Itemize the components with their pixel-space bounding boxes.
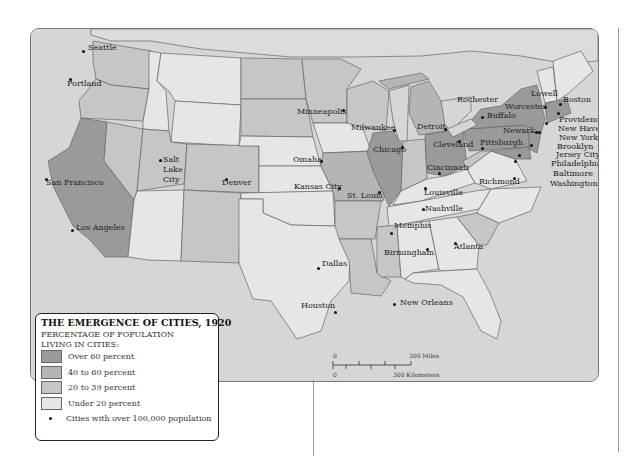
city-label: City — [163, 175, 179, 184]
city-dot-icon — [334, 311, 337, 314]
city-label: Houston — [301, 301, 335, 310]
city-label: Boston — [563, 95, 591, 104]
city-dot-icon — [518, 154, 521, 157]
city-label: Dallas — [322, 259, 347, 268]
city-dot-icon — [71, 229, 74, 232]
swatch-20-to-39 — [41, 381, 62, 394]
city-label: Atlanta — [454, 242, 483, 251]
city-label: Detroit — [417, 122, 446, 131]
city-dot-icon — [481, 116, 484, 119]
city-label: Cleveland — [433, 140, 473, 149]
city-dot-icon — [514, 160, 517, 163]
city-label: Louisville — [424, 188, 463, 197]
legend-subtitle-line1: PERCENTAGE OF POPULATION — [41, 330, 213, 340]
legend-item-40-to-60: 40 to 60 percent — [41, 365, 213, 381]
city-dot-icon — [530, 144, 533, 147]
page-divider-right — [618, 28, 619, 452]
scale-zero-miles: 0 — [333, 352, 337, 359]
city-label: Philadelphia — [551, 159, 599, 168]
legend-label: Under 20 percent — [68, 399, 140, 408]
city-label: Providence — [559, 115, 599, 124]
swatch-over-60 — [41, 350, 62, 363]
city-label: Denver — [222, 178, 251, 187]
legend-item-under-20: Under 20 percent — [41, 396, 213, 412]
city-label: Buffalo — [487, 111, 516, 120]
city-label: Cincinnati — [427, 163, 469, 172]
city-label: Memphis — [394, 221, 431, 230]
city-dot-icon — [393, 303, 396, 306]
swatch-under-20 — [41, 397, 62, 410]
swatch-40-to-60 — [41, 366, 62, 379]
city-label: Nashville — [425, 204, 463, 213]
scale-zero-km: 0 — [333, 371, 337, 378]
scale-miles-label: 300 Miles — [409, 352, 439, 359]
legend-subtitle-line2: LIVING IN CITIES: — [41, 340, 213, 350]
city-label: Birmingham — [384, 248, 434, 257]
city-label: Omaha — [293, 155, 322, 164]
city-label: Lowell — [531, 89, 558, 98]
city-label: San Francisco — [46, 178, 104, 187]
legend-label: Cities with over 100,000 population — [66, 414, 212, 423]
city-label: Lake — [163, 165, 183, 174]
city-label: Minneapolis — [297, 107, 347, 116]
legend-label: 20 to 39 percent — [68, 383, 135, 392]
city-dot-icon — [559, 103, 562, 106]
city-label: Rochester — [457, 95, 498, 104]
city-label: Milwaukee — [351, 123, 395, 132]
scale-bar — [331, 360, 421, 370]
city-label: Jersey City — [556, 150, 599, 159]
city-dot-icon — [159, 159, 162, 162]
map-legend: THE EMERGENCE OF CITIES, 1920 PERCENTAGE… — [35, 313, 219, 441]
city-label: St. Louis — [347, 191, 383, 200]
legend-title: THE EMERGENCE OF CITIES, 1920 — [41, 317, 213, 328]
city-label: Portland — [67, 79, 102, 88]
city-dot-icon — [390, 232, 393, 235]
legend-item-20-to-39: 20 to 39 percent — [41, 380, 213, 396]
page-divider-center — [313, 380, 314, 456]
city-label: Los Angeles — [76, 223, 125, 232]
city-dot-icon — [49, 417, 52, 420]
city-label: Newark — [503, 126, 535, 135]
city-dot-icon — [538, 131, 541, 134]
city-label: New Orleans — [400, 298, 453, 307]
legend-item-over-60: Over 60 percent — [41, 349, 213, 365]
city-label: Chicago — [373, 145, 406, 154]
city-label: Richmond — [479, 177, 520, 186]
city-label: New York — [559, 133, 598, 142]
city-dot-icon — [82, 50, 85, 53]
city-label: Seattle — [88, 43, 117, 52]
legend-label: 40 to 60 percent — [68, 368, 135, 377]
city-label: Kansas City — [294, 182, 342, 191]
city-label: Pittsburgh — [480, 138, 523, 147]
scale-km-label: 300 Kilometers — [393, 371, 439, 378]
map-scale: 0 300 Miles 0 300 Kilometers — [331, 352, 461, 382]
city-dot-icon — [317, 267, 320, 270]
legend-label: Over 60 percent — [68, 352, 134, 361]
legend-item-city-dot: Cities with over 100,000 population — [41, 411, 213, 427]
city-label: Salt — [163, 155, 179, 164]
city-label: Washington — [550, 179, 598, 188]
city-label: New Haven — [558, 124, 599, 133]
city-label: Baltimore — [553, 169, 593, 178]
city-dot-icon — [545, 122, 548, 125]
city-label: Worcester — [505, 102, 546, 111]
